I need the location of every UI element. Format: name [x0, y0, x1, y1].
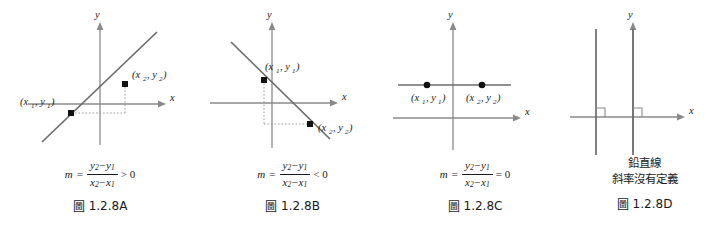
caption-prefix: 圖: [617, 195, 629, 212]
x-axis-label: x: [688, 105, 694, 116]
fraction-numerator: y2−y1: [87, 159, 118, 174]
right-angle-mark-2: [633, 108, 642, 117]
line-negative-slope: [231, 42, 330, 139]
data-point-2: [307, 121, 313, 127]
svg-text:): ): [162, 69, 167, 81]
point-label-2: (x: [132, 69, 140, 81]
x-axis-arrow: [677, 114, 685, 121]
point-label-1: (x: [411, 92, 419, 104]
caption-number: 1.2.8D: [633, 197, 673, 211]
caption-number: 1.2.8C: [464, 199, 503, 213]
svg-text:, y: , y: [35, 96, 45, 107]
point-label-2: (x: [318, 122, 326, 134]
svg-text:1: 1: [31, 102, 35, 110]
point-label-1: (x: [20, 96, 28, 108]
x-axis-arrow: [513, 115, 521, 122]
x-axis-arrow: [158, 101, 166, 108]
plot-b: (x 1 , y 1 ) (x 2 , y 2 ) x y: [200, 0, 385, 155]
svg-text:): ): [295, 61, 300, 73]
data-point-1: [68, 110, 74, 116]
svg-text:, y: , y: [280, 61, 290, 72]
y-axis-arrow: [269, 22, 276, 30]
plot-d-svg: x y: [565, 0, 724, 155]
plot-a: (x 1 , y 1 ) (x 2 , y 2 ) x y: [0, 0, 200, 155]
point-label-2: (x: [466, 92, 474, 104]
svg-text:): ): [496, 92, 501, 104]
slope-relation: < 0: [313, 169, 327, 180]
plot-b-svg: (x 1 , y 1 ) (x 2 , y 2 ) x y: [200, 0, 385, 155]
slope-formula-b: m = y2−y1 x2−x1 < 0: [257, 157, 327, 191]
x-axis-label: x: [169, 92, 175, 103]
caption-prefix: 圖: [73, 197, 85, 214]
formula-equals: =: [268, 169, 276, 180]
fraction-denominator: x2−x1: [462, 175, 493, 190]
caption-number: 1.2.8A: [89, 199, 128, 213]
svg-text:1: 1: [47, 102, 51, 110]
formula-m: m: [257, 169, 265, 180]
figure-panel-c: (x 1 , y 1 ) (x 2 , y 2 ) x y m = y2−y1 …: [385, 0, 565, 231]
y-axis-arrow: [450, 22, 457, 30]
y-axis-label: y: [447, 9, 453, 20]
figure-panel-d: x y 鉛直線 斜率沒有定義 圖 1.2.8D: [565, 0, 724, 231]
plot-c: (x 1 , y 1 ) (x 2 , y 2 ) x y: [385, 0, 565, 155]
note-line-2: 斜率沒有定義: [612, 172, 678, 188]
formula-m: m: [440, 169, 448, 180]
right-angle-mark-1: [596, 108, 605, 117]
x-axis-label: x: [341, 91, 347, 102]
slope-formula-a: m = y2−y1 x2−x1 > 0: [65, 157, 135, 191]
formula-equals: =: [451, 169, 459, 180]
figure-row: (x 1 , y 1 ) (x 2 , y 2 ) x y m = y2−y1 …: [0, 0, 724, 231]
plot-d: x y: [565, 0, 724, 155]
svg-text:, y: , y: [426, 92, 436, 103]
data-point-1: [424, 82, 431, 89]
fraction-numerator: y2−y1: [462, 159, 493, 174]
x-axis-label: x: [524, 106, 530, 117]
formula-fraction: y2−y1 x2−x1: [462, 159, 493, 190]
vertical-line-note: 鉛直線 斜率沒有定義: [612, 155, 678, 189]
y-axis-label: y: [266, 9, 272, 20]
y-axis-arrow: [97, 22, 104, 30]
note-line-1: 鉛直線: [612, 156, 678, 172]
caption-b: 圖 1.2.8B: [265, 197, 320, 214]
svg-text:): ): [441, 92, 446, 104]
data-point-2: [122, 81, 128, 87]
formula-fraction: y2−y1 x2−x1: [87, 159, 118, 190]
figure-panel-a: (x 1 , y 1 ) (x 2 , y 2 ) x y m = y2−y1 …: [0, 0, 200, 231]
plot-c-svg: (x 1 , y 1 ) (x 2 , y 2 ) x y: [385, 0, 565, 155]
caption-prefix: 圖: [448, 197, 460, 214]
caption-d: 圖 1.2.8D: [617, 195, 673, 212]
svg-text:1: 1: [438, 98, 442, 106]
caption-prefix: 圖: [265, 197, 277, 214]
formula-equals: =: [76, 169, 84, 180]
y-axis-label: y: [94, 9, 100, 20]
caption-c: 圖 1.2.8C: [448, 197, 503, 214]
svg-text:1: 1: [276, 67, 280, 75]
slope-relation: > 0: [121, 169, 135, 180]
y-axis-label: y: [627, 9, 633, 20]
x-axis-arrow: [330, 100, 338, 107]
svg-text:1: 1: [292, 67, 296, 75]
slope-formula-c: m = y2−y1 x2−x1 = 0: [440, 157, 510, 191]
data-point-1: [261, 77, 267, 83]
svg-text:): ): [348, 122, 353, 134]
data-point-2: [479, 82, 486, 89]
caption-number: 1.2.8B: [281, 199, 320, 213]
svg-text:): ): [50, 96, 55, 108]
figure-panel-b: (x 1 , y 1 ) (x 2 , y 2 ) x y m = y2−y1 …: [200, 0, 385, 231]
plot-a-svg: (x 1 , y 1 ) (x 2 , y 2 ) x y: [0, 0, 200, 155]
fraction-numerator: y2−y1: [280, 159, 311, 174]
fraction-denominator: x2−x1: [280, 175, 311, 190]
svg-text:1: 1: [422, 98, 426, 106]
y-axis-arrow: [630, 22, 637, 30]
svg-text:, y: , y: [481, 92, 491, 103]
svg-text:, y: , y: [147, 69, 157, 80]
formula-fraction: y2−y1 x2−x1: [280, 159, 311, 190]
slope-relation: = 0: [496, 169, 510, 180]
caption-a: 圖 1.2.8A: [73, 197, 128, 214]
svg-text:, y: , y: [333, 122, 343, 133]
formula-m: m: [65, 169, 73, 180]
fraction-denominator: x2−x1: [87, 175, 118, 190]
point-label-1: (x: [265, 61, 273, 73]
